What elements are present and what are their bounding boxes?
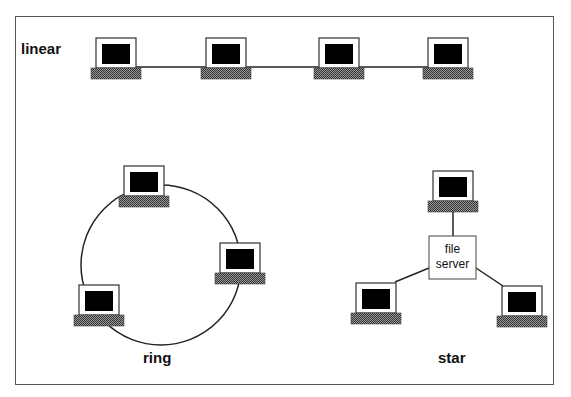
file-server-label: file server (429, 242, 476, 272)
computer-icon (215, 243, 265, 284)
computer-icon (74, 285, 124, 326)
computer-icon (314, 38, 364, 79)
computer-icon (91, 38, 141, 79)
ring-label: ring (143, 349, 171, 366)
linear-topology (91, 38, 473, 79)
network-diagram (0, 0, 571, 397)
computer-icon (428, 171, 478, 212)
star-label: star (438, 349, 466, 366)
computer-icon (423, 38, 473, 79)
linear-label: linear (21, 40, 61, 57)
file-server-label-line1: file (429, 242, 476, 257)
ring-topology (74, 166, 265, 345)
computer-icon (201, 38, 251, 79)
computer-icon (497, 286, 547, 327)
computer-icon (351, 283, 401, 324)
computer-icon (119, 166, 169, 207)
file-server-label-line2: server (429, 257, 476, 272)
